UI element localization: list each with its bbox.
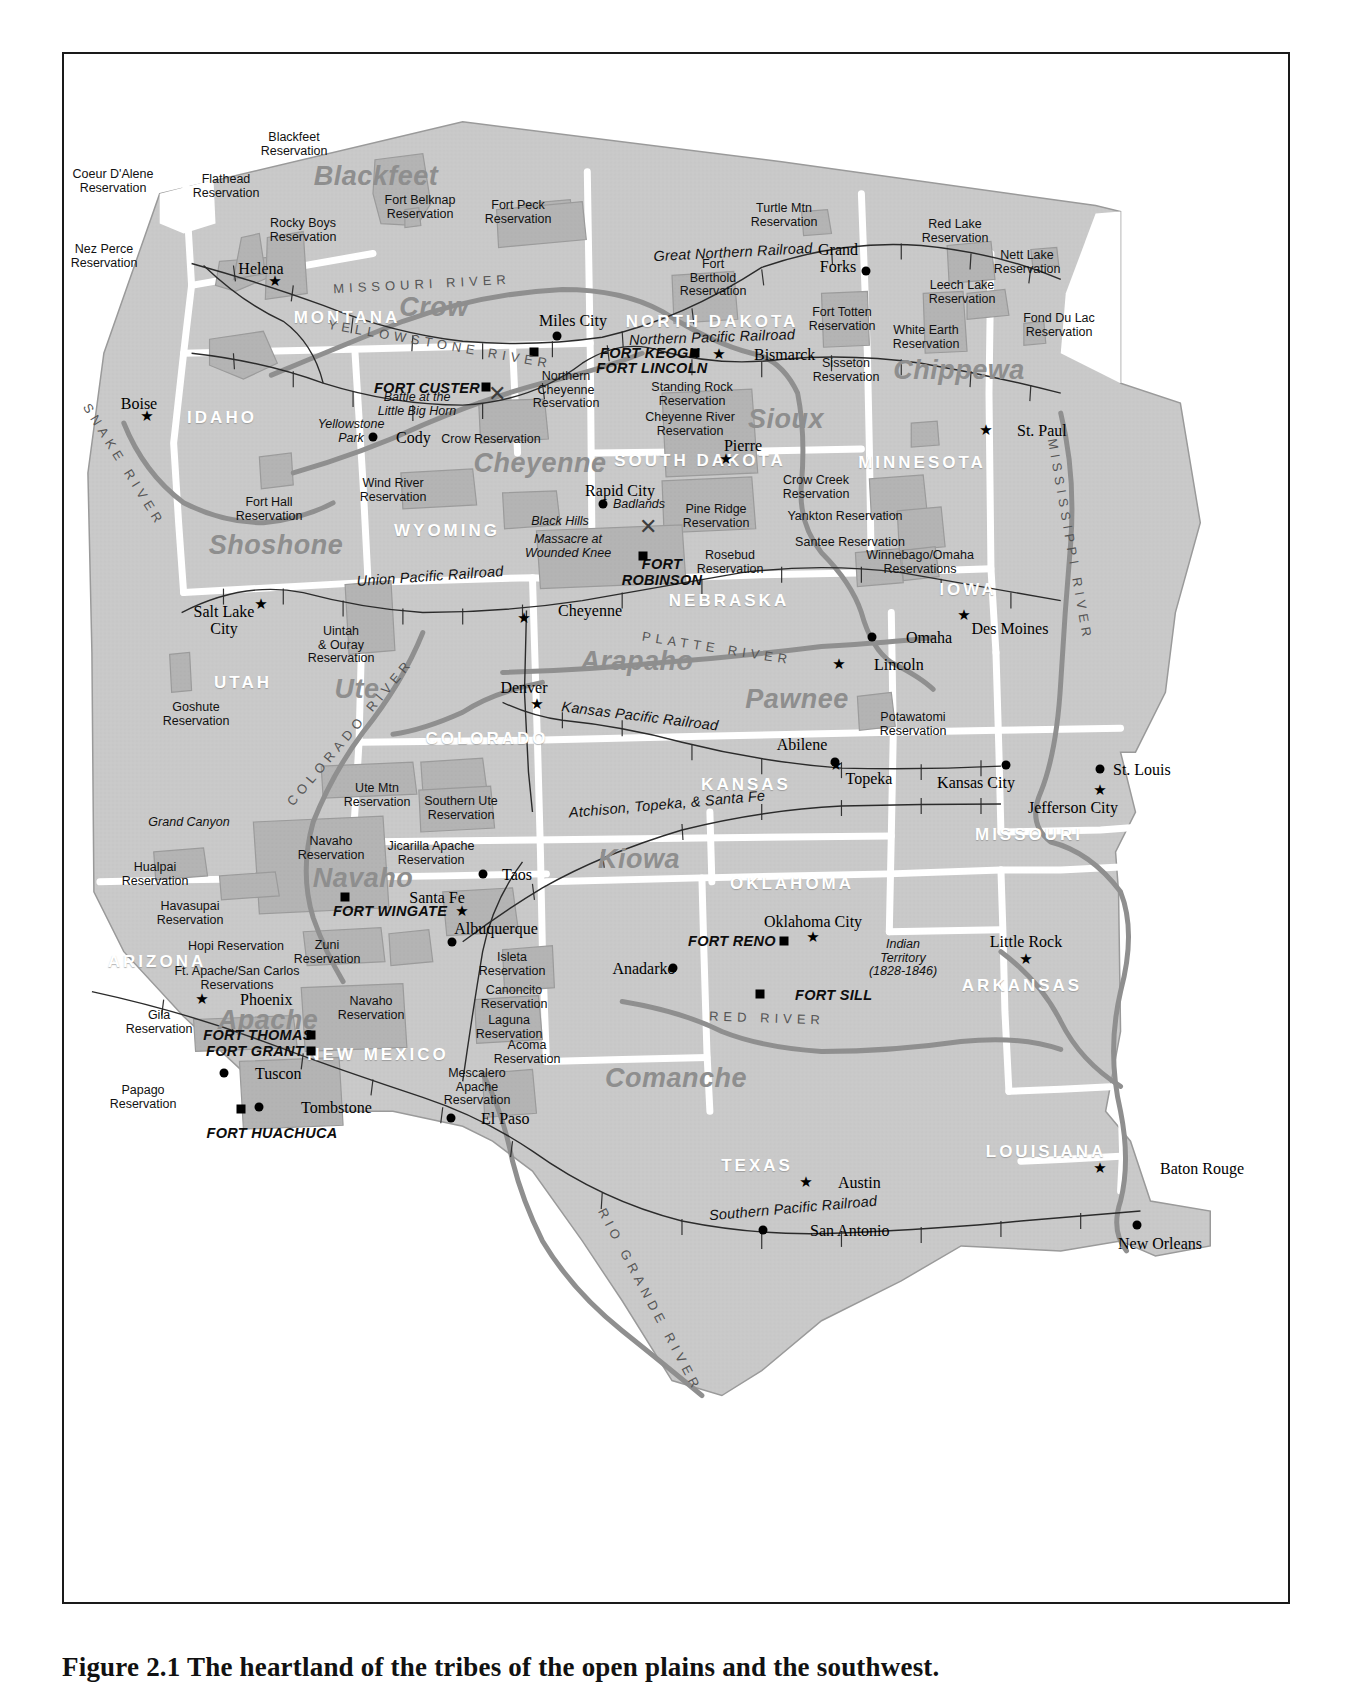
figure-caption: Figure 2.1 The heartland of the tribes o… <box>62 1652 1302 1689</box>
land-region <box>88 122 1210 1396</box>
map-frame <box>62 52 1290 1604</box>
landmass-layer <box>88 122 1210 1396</box>
map-graphics <box>64 54 1288 1602</box>
map-page: MONTANAIDAHONORTH DAKOTASOUTH DAKOTAMINN… <box>0 0 1357 1689</box>
